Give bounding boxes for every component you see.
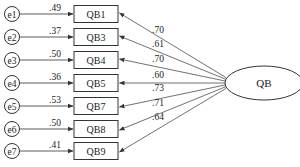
factor-loading-arrow — [120, 59, 227, 81]
error-weight-label: .36 — [49, 72, 61, 82]
factor-loading-arrow — [120, 85, 227, 107]
error-weight-label: .37 — [49, 26, 61, 36]
factor-loading-label: .73 — [152, 83, 164, 93]
error-term-label: e7 — [8, 147, 17, 157]
observed-variable-label: QB4 — [87, 55, 106, 66]
observed-variable-label: QB7 — [87, 101, 106, 112]
latent-label: QB — [256, 77, 271, 89]
observed-variable-label: QB3 — [87, 32, 106, 43]
error-term-label: e3 — [8, 56, 17, 66]
error-weight-label: .50 — [49, 49, 61, 59]
latent-factor-qb: QB — [225, 66, 300, 100]
error-term-label: e6 — [8, 125, 17, 135]
factor-loading-label: .61 — [152, 39, 164, 49]
factor-loading-label: .70 — [152, 25, 164, 35]
factor-loading-label: .64 — [152, 112, 164, 122]
factor-loading-arrow — [120, 88, 227, 152]
observed-variable-label: QB8 — [87, 124, 106, 135]
observed-variable-label: QB5 — [87, 78, 106, 89]
factor-loading-arrow — [120, 36, 227, 79]
error-term-label: e2 — [8, 33, 17, 43]
factor-loading-arrow — [120, 87, 227, 130]
observed-variable-label: QB1 — [87, 9, 106, 20]
error-term-label: e1 — [8, 10, 17, 20]
factor-loading-label: .60 — [152, 70, 164, 80]
observed-variable-label: QB9 — [87, 146, 106, 157]
indicator-row: e4.36QB5.60 — [5, 70, 227, 92]
factor-loading-label: .71 — [152, 98, 164, 108]
error-weight-label: .50 — [49, 118, 61, 128]
factor-loading-label: .70 — [152, 54, 164, 64]
error-term-label: e4 — [8, 79, 17, 89]
caption-truncated — [0, 160, 300, 167]
error-weight-label: .53 — [49, 95, 61, 105]
cfa-diagram: e1.49QB1.70e2.37QB3.61e3.50QB4.70e4.36QB… — [0, 0, 300, 167]
factor-loading-arrow — [120, 13, 227, 78]
error-weight-label: .41 — [49, 140, 61, 150]
error-weight-label: .49 — [49, 3, 61, 13]
error-term-label: e5 — [8, 102, 17, 112]
